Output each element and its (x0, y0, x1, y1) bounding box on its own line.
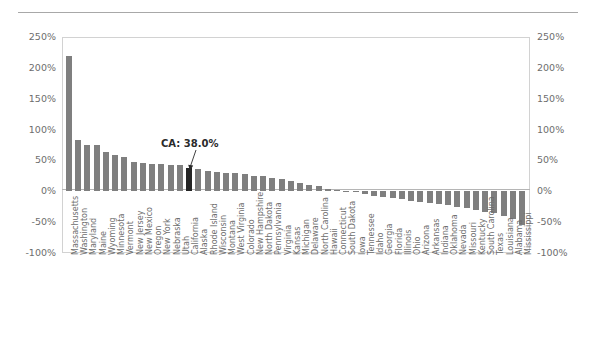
x-tick-label: Georgia (386, 224, 394, 255)
bar (343, 191, 349, 192)
x-tick-label: Michigan (303, 219, 311, 255)
x-tick-label: North Dakota (266, 202, 274, 255)
x-tick-label: Rhode Island (211, 203, 219, 255)
y-tick-label-left: 50% (35, 155, 56, 165)
bar (501, 191, 507, 216)
bar (195, 169, 201, 191)
y-tick-label-right: -100% (537, 248, 568, 258)
bar (316, 186, 322, 191)
bar (149, 164, 155, 192)
x-tick-label: New Mexico (146, 207, 154, 255)
bar (325, 189, 331, 191)
bar (94, 145, 100, 191)
bar (75, 140, 81, 191)
x-tick-label: Kansas (294, 227, 302, 255)
x-tick-label: Wisconsin (220, 215, 228, 255)
y-tick-label-left: 250% (29, 32, 56, 42)
y-tick-label-right: 0% (537, 186, 552, 196)
bar (158, 164, 164, 191)
x-tick-label: Connecticut (340, 207, 348, 255)
annotation-arrow-icon (186, 150, 200, 172)
bar (297, 183, 303, 191)
bar (473, 191, 479, 210)
x-tick-label: Massachusetts (72, 196, 80, 255)
bar (168, 165, 174, 192)
x-tick-label: Kentucky (479, 218, 487, 255)
bar (390, 191, 396, 198)
bar (288, 181, 294, 191)
x-tick-label: Colorado (248, 219, 256, 255)
bar (177, 165, 183, 191)
x-tick-label: Alabama (516, 220, 524, 255)
bar (223, 173, 229, 192)
x-tick-label: Florida (396, 228, 404, 255)
bar (464, 191, 470, 208)
bar (353, 191, 359, 192)
y-tick-label-right: -50% (537, 217, 562, 227)
x-tick-label: New Hampshire (257, 192, 265, 255)
bar (84, 145, 90, 191)
y-tick-label-left: -100% (25, 248, 56, 258)
x-tick-label: Idaho (377, 233, 385, 255)
x-tick-label: Montana (229, 220, 237, 255)
bar (112, 155, 118, 191)
x-tick-label: Wyoming (109, 217, 117, 255)
x-tick-label: Washington (81, 208, 89, 255)
y-tick-label-right: 100% (537, 125, 564, 135)
header-divider (18, 12, 578, 13)
bar (380, 191, 386, 197)
bar (242, 174, 248, 191)
x-tick-label: Minnesota (118, 214, 126, 255)
x-tick-label: Delaware (312, 217, 320, 255)
bar (510, 191, 516, 219)
bar (306, 185, 312, 191)
bar (140, 163, 146, 191)
x-tick-label: Texas (497, 233, 505, 255)
x-tick-label: Alaska (201, 229, 209, 255)
chart-figure: 250%200%150%100%50%0%-50%-100% 250%200%1… (0, 0, 595, 352)
x-axis-category-labels: MassachusettsWashingtonMarylandMaineWyom… (62, 255, 530, 350)
x-tick-label: Nebraska (174, 217, 182, 255)
x-tick-label: Oklahoma (451, 214, 459, 255)
x-tick-label: Ohio (414, 237, 422, 255)
x-tick-label: Maryland (90, 218, 98, 255)
bar (260, 176, 266, 191)
x-tick-label: Tennessee (368, 213, 376, 255)
bar (454, 191, 460, 206)
y-tick-label-left: 100% (29, 125, 56, 135)
y-tick-label-left: 0% (41, 186, 56, 196)
y-tick-label-right: 150% (537, 94, 564, 104)
x-tick-label: Indiana (442, 225, 450, 255)
bar (399, 191, 405, 199)
bar (371, 191, 377, 195)
bar (205, 171, 211, 191)
bar (131, 162, 137, 192)
x-tick-label: Oregon (155, 226, 163, 255)
x-tick-label: Nevada (460, 224, 468, 255)
x-tick-label: West Virginia (238, 203, 246, 255)
bar (334, 190, 340, 191)
x-tick-label: Pennsylvania (275, 202, 283, 255)
annotation-label: CA: 38.0% (161, 138, 218, 150)
x-tick-label: New Jersey (137, 211, 145, 255)
x-tick-label: North Carolina (322, 197, 330, 255)
x-tick-label: South Carolina (488, 196, 496, 255)
bar (269, 178, 275, 192)
bar (362, 191, 368, 193)
y-tick-label-left: -50% (31, 217, 56, 227)
bar (427, 191, 433, 203)
x-tick-label: Louisiana (507, 217, 515, 255)
x-tick-label: California (192, 217, 200, 255)
x-tick-label: Vermont (127, 221, 135, 255)
y-tick-label-left: 150% (29, 94, 56, 104)
y-tick-label-right: 200% (537, 63, 564, 73)
x-tick-label: Utah (183, 236, 191, 255)
bar (232, 173, 238, 191)
bar (417, 191, 423, 201)
bar (279, 179, 285, 191)
bar (214, 172, 220, 192)
x-tick-label: New York (164, 218, 172, 255)
x-tick-label: Mississippi (525, 212, 533, 255)
x-tick-label: Virginia (285, 225, 293, 255)
y-tick-label-left: 200% (29, 63, 56, 73)
